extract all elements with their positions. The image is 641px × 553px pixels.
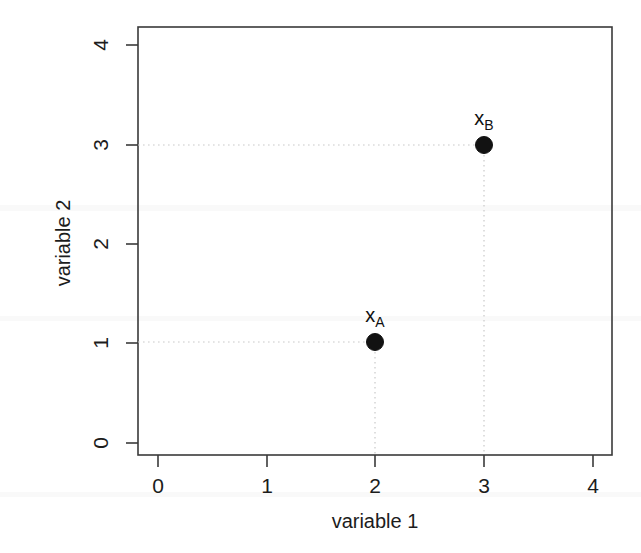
data-point-a[interactable]: [367, 334, 384, 351]
data-point-a-label: xA: [365, 304, 385, 330]
y-axis-title: variable 2: [52, 200, 74, 287]
y-tick-label-1: 1: [89, 337, 112, 349]
y-tick-label-2: 2: [89, 238, 112, 250]
x-tick-label-3: 3: [478, 474, 490, 497]
x-axis-title: variable 1: [332, 510, 419, 532]
data-point-b-label-main: x: [474, 107, 484, 129]
data-point-b-label-subscript: B: [484, 117, 493, 133]
data-point-a-label-main: x: [365, 304, 375, 326]
plot-canvas: 0 1 2 3 4 0 1 2 3 4 variable 1 variable …: [0, 0, 641, 553]
y-tick-label-3: 3: [89, 139, 112, 151]
data-point-a-label-subscript: A: [375, 314, 385, 330]
x-tick-label-4: 4: [587, 474, 599, 497]
scatter-plot-figure: 0 1 2 3 4 0 1 2 3 4 variable 1 variable …: [0, 0, 641, 553]
x-tick-label-1: 1: [261, 474, 273, 497]
data-point-b-label: xB: [474, 107, 493, 133]
x-tick-label-2: 2: [369, 474, 381, 497]
y-tick-label-4: 4: [89, 39, 112, 51]
x-tick-label-0: 0: [152, 474, 164, 497]
y-tick-label-0: 0: [89, 437, 112, 449]
plot-frame-box: [138, 27, 612, 455]
data-point-b[interactable]: [476, 137, 493, 154]
